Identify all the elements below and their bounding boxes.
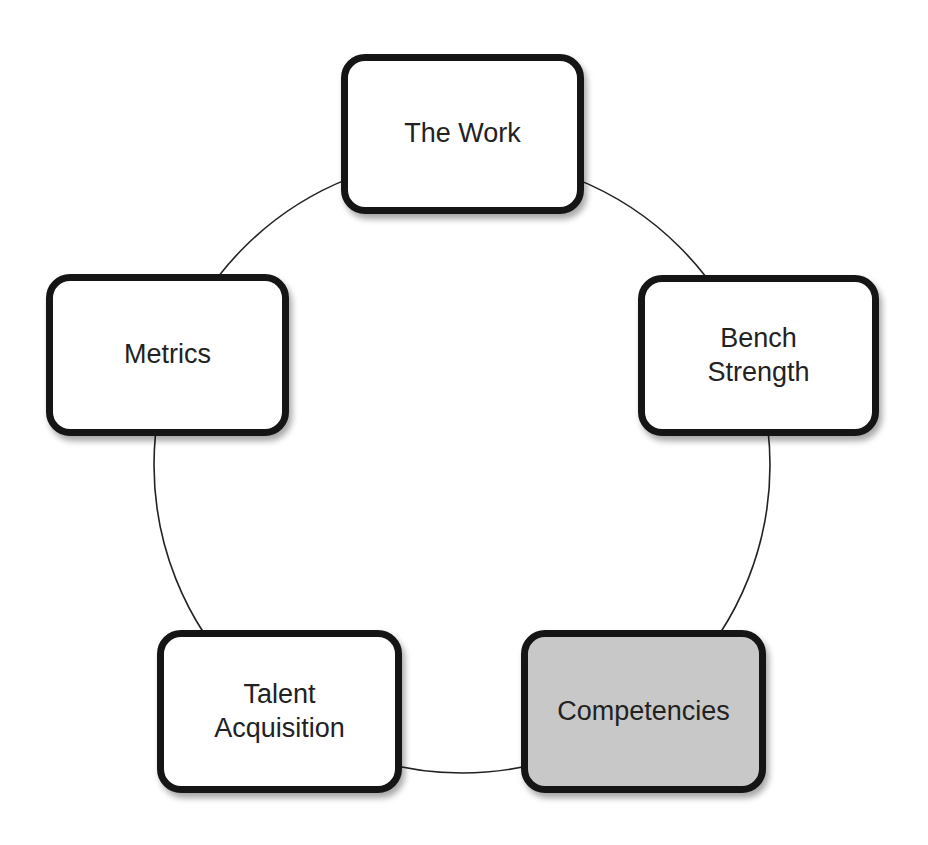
node-metrics: Metrics	[46, 274, 289, 436]
node-label: The Work	[404, 117, 521, 151]
node-the-work: The Work	[341, 54, 584, 214]
node-talent-acquisition: Talent Acquisition	[157, 630, 402, 793]
node-label: Bench Strength	[707, 322, 809, 390]
node-bench-strength: Bench Strength	[638, 275, 879, 436]
node-competencies: Competencies	[521, 630, 766, 793]
node-label: Metrics	[124, 338, 211, 372]
node-label: Competencies	[557, 695, 730, 729]
node-label: Talent Acquisition	[214, 678, 345, 746]
